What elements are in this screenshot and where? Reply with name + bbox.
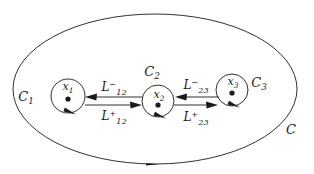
connector-L12-minus [85,94,142,101]
label-C3: C3 [251,75,267,92]
label-x3: x3 [228,75,239,90]
circle-C2-arrowhead [154,112,167,119]
label-L12-plus: L+12 [100,108,126,126]
connector-L23-plus-arrowhead [206,102,218,109]
circle-C1-arrowhead [64,108,77,115]
label-x1: x1 [63,80,74,95]
outer-contour-arrowhead [146,163,159,165]
label-C1: C1 [18,89,34,106]
label-L23-minus: L−23 [182,77,208,95]
label-x2: x2 [154,88,165,103]
label-L12-minus: L−12 [100,79,126,97]
label-C2: C2 [144,64,160,81]
connector-L23-plus [174,102,218,109]
contour-diagram: C C1 C2 C3 x1 x2 x3 L−12 [0,0,314,174]
figure-canvas: C C1 C2 C3 x1 x2 x3 L−12 [0,0,314,174]
connector-L23-minus-arrowhead [175,94,187,101]
point-x3-dot [229,90,234,95]
point-x1-dot [65,96,70,101]
connector-L12-minus-arrowhead [85,94,97,101]
connector-L12-plus-arrowhead [130,102,142,109]
connector-L23-minus [175,94,219,101]
point-x2-dot [155,102,160,107]
label-outer-C: C [286,122,296,137]
label-L23-plus: L+23 [182,109,208,127]
circle-C3-arrowhead [228,101,241,108]
